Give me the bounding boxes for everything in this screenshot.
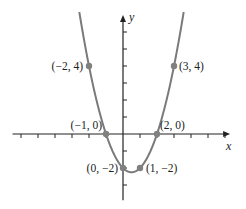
x-axis-label: x (225, 139, 232, 153)
parabola-plot: xy (−2, 4)(3, 4)(−1, 0)(2, 0)(0, −2)(1, … (0, 0, 246, 209)
y-axis-label: y (128, 10, 135, 24)
data-point (154, 131, 160, 137)
data-point (137, 165, 143, 171)
parabola-curve (79, 12, 183, 172)
x-axis-arrow-icon (223, 131, 230, 137)
point-label: (0, −2) (87, 162, 119, 175)
point-label: (3, 4) (179, 60, 204, 73)
point-label: (−1, 0) (71, 119, 103, 132)
data-point (86, 63, 92, 69)
data-point (171, 63, 177, 69)
point-label: (−2, 4) (52, 60, 84, 73)
point-label: (1, −2) (146, 162, 178, 175)
labeled-points: (−2, 4)(3, 4)(−1, 0)(2, 0)(0, −2)(1, −2) (52, 60, 204, 175)
point-label: (2, 0) (160, 119, 185, 132)
axes: xy (13, 10, 233, 200)
y-axis-arrow-icon (120, 15, 126, 22)
data-point (120, 165, 126, 171)
data-point (103, 131, 109, 137)
